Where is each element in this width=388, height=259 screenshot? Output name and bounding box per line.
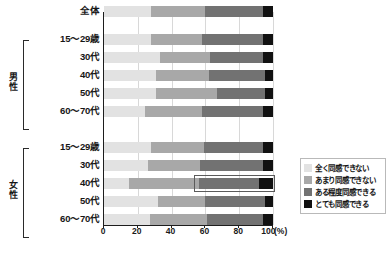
bar-segment xyxy=(263,106,273,117)
category-label: 15〜29歳 xyxy=(60,141,100,153)
group-name-female: 女性 xyxy=(8,180,19,200)
bar-segment xyxy=(104,160,148,171)
bar-segment xyxy=(151,6,205,17)
bar-row xyxy=(104,88,273,99)
bar-segment xyxy=(160,52,211,63)
x-tick-label: 40 xyxy=(166,226,175,236)
bar-segment xyxy=(265,196,273,207)
category-label: 60〜70代 xyxy=(60,213,100,225)
category-label: 30代 xyxy=(80,51,100,63)
group-name-male: 男性 xyxy=(8,72,19,92)
legend-label: ある程度同感できる xyxy=(315,188,375,197)
bar-segment xyxy=(104,6,151,17)
bar-row xyxy=(104,178,273,189)
category-label: 15〜29歳 xyxy=(60,33,100,45)
bar-segment xyxy=(145,106,202,117)
bar-segment xyxy=(263,214,273,225)
bar-segment xyxy=(202,106,263,117)
bar-segment xyxy=(156,88,217,99)
category-label: 50代 xyxy=(80,87,100,99)
plot-area xyxy=(103,12,273,226)
bar-row xyxy=(104,160,273,171)
bar-row xyxy=(104,106,273,117)
x-tick-label: 60 xyxy=(200,226,209,236)
bar-segment xyxy=(207,214,263,225)
bar-segment xyxy=(205,6,262,17)
bar-segment xyxy=(104,88,156,99)
bar-row xyxy=(104,196,273,207)
bar-row xyxy=(104,214,273,225)
legend-swatch xyxy=(304,200,312,208)
bar-segment xyxy=(104,70,156,81)
legend-label: 全く同感できない xyxy=(315,164,369,173)
stacked-bar-chart: 男性 女性 020406080100(%) 全く同感できないあまり同感できないあ… xyxy=(0,0,388,259)
bar-segment xyxy=(129,178,198,189)
category-label: 30代 xyxy=(80,159,100,171)
legend-label: とても同感できる xyxy=(315,200,369,209)
gridline xyxy=(273,12,274,225)
bar-segment xyxy=(263,6,273,17)
bar-segment xyxy=(263,160,273,171)
bar-segment xyxy=(202,34,263,45)
bar-segment xyxy=(104,142,151,153)
bar-segment xyxy=(209,70,265,81)
bar-segment xyxy=(104,52,160,63)
bar-segment xyxy=(205,196,264,207)
bar-segment xyxy=(200,160,263,171)
bar-segment xyxy=(104,214,150,225)
legend-label: あまり同感できない xyxy=(315,176,375,185)
legend-item: とても同感できる xyxy=(304,199,382,209)
bar-segment xyxy=(158,196,205,207)
category-label: 60〜70代 xyxy=(60,105,100,117)
group-bracket-female xyxy=(23,148,29,238)
legend-swatch xyxy=(304,188,312,196)
bar-segment xyxy=(150,214,207,225)
bar-segment xyxy=(151,142,203,153)
group-bracket-male xyxy=(23,40,29,130)
bar-segment xyxy=(265,88,273,99)
bar-segment xyxy=(263,34,273,45)
bar-segment xyxy=(156,70,208,81)
bar-segment xyxy=(104,196,158,207)
bar-segment xyxy=(199,178,260,189)
category-label: 50代 xyxy=(80,195,100,207)
bar-segment xyxy=(104,34,151,45)
bar-segment xyxy=(263,142,273,153)
bar-row xyxy=(104,52,273,63)
x-axis-unit-label: (%) xyxy=(274,226,287,236)
category-label: 40代 xyxy=(80,69,100,81)
category-label: 40代 xyxy=(80,177,100,189)
bar-row xyxy=(104,70,273,81)
legend: 全く同感できないあまり同感できないある程度同感できるとても同感できる xyxy=(300,158,386,214)
legend-item: あまり同感できない xyxy=(304,175,382,185)
bar-segment xyxy=(217,88,264,99)
bar-segment xyxy=(210,52,262,63)
legend-swatch xyxy=(304,164,312,172)
legend-item: 全く同感できない xyxy=(304,163,382,173)
bar-row xyxy=(104,6,273,17)
legend-item: ある程度同感できる xyxy=(304,187,382,197)
bar-segment xyxy=(204,142,263,153)
x-tick-label: 20 xyxy=(132,226,141,236)
bar-segment xyxy=(259,178,273,189)
bar-segment xyxy=(104,106,145,117)
legend-swatch xyxy=(304,176,312,184)
bar-segment xyxy=(104,178,129,189)
x-tick-label: 80 xyxy=(233,226,242,236)
x-tick-label: 0 xyxy=(101,226,106,236)
bar-segment xyxy=(148,160,200,171)
bar-row xyxy=(104,34,273,45)
bar-row xyxy=(104,142,273,153)
bar-segment xyxy=(263,52,273,63)
category-label: 全体 xyxy=(80,5,100,17)
bar-segment xyxy=(265,70,273,81)
bar-segment xyxy=(151,34,202,45)
